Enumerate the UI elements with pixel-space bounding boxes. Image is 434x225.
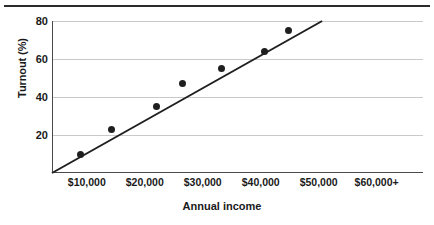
plot-area	[52, 21, 423, 173]
x-tick-label: $30,000	[184, 176, 222, 188]
x-tick-label: $40,000	[242, 176, 280, 188]
scatter-point	[153, 103, 160, 110]
chart-figure: Turnout (%) 20406080 $10,000$20,000$30,0…	[0, 0, 434, 225]
scatter-point	[108, 126, 115, 133]
scatter-point	[261, 48, 268, 55]
trend-line	[52, 21, 322, 173]
x-axis-title: Annual income	[52, 200, 392, 212]
y-tick-label: 80	[8, 16, 48, 27]
x-tick-label: $20,000	[126, 176, 164, 188]
scatter-point	[77, 151, 84, 158]
top-divider-rule	[4, 5, 430, 7]
y-tick-label: 40	[8, 92, 48, 103]
y-tick-label: 60	[8, 54, 48, 65]
trend-line-overlay	[52, 21, 423, 173]
scatter-point	[285, 27, 292, 34]
x-tick-label: $10,000	[68, 176, 106, 188]
x-tick-label: $50,000	[300, 176, 338, 188]
x-axis-tick-labels: $10,000$20,000$30,000$40,000$50,000$60,0…	[52, 176, 423, 196]
x-tick-label: $60,000+	[355, 176, 399, 188]
y-axis-tick-labels: 20406080	[4, 21, 48, 173]
y-tick-label: 20	[8, 130, 48, 141]
